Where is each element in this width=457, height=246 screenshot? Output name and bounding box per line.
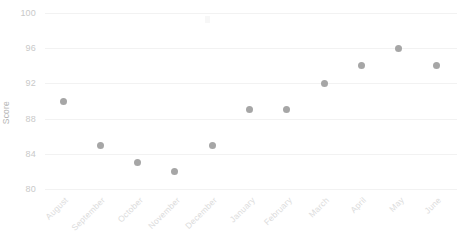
gridline (45, 83, 457, 84)
data-point (283, 106, 290, 113)
data-point (171, 168, 178, 175)
y-axis-title: Score (1, 101, 15, 124)
data-point (246, 106, 253, 113)
y-tick-label: 96 (26, 43, 36, 53)
data-point (60, 98, 67, 105)
x-axis: AugustSeptemberOctoberNovemberDecemberJa… (45, 189, 457, 246)
y-tick-label: 100 (20, 8, 36, 18)
data-point (433, 62, 440, 69)
gridline (45, 119, 457, 120)
y-tick-label: 88 (26, 114, 36, 124)
data-point (97, 142, 104, 149)
data-point (321, 80, 328, 87)
data-point (358, 62, 365, 69)
cursor-artifact (205, 16, 210, 23)
plot-area (45, 13, 457, 189)
gridline (45, 13, 457, 14)
data-point (209, 142, 216, 149)
y-tick-label: 80 (26, 184, 36, 194)
y-tick-label: 84 (26, 149, 36, 159)
data-point (134, 159, 141, 166)
y-tick-label: 92 (26, 78, 36, 88)
gridline (45, 154, 457, 155)
scatter-chart: 8084889296100 Score AugustSeptemberOctob… (0, 0, 457, 246)
data-point (395, 45, 402, 52)
